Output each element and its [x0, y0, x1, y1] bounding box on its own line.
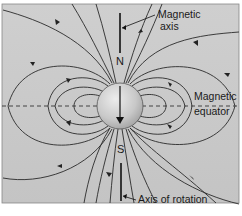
magnetic-axis-label-line2: axis [160, 21, 179, 32]
north-pole-label: N [116, 55, 124, 67]
south-pole-label: S [117, 143, 124, 155]
magnetic-equator-label-line2: equator [194, 106, 230, 117]
magnetic-axis-label-line1: Magnetic [158, 9, 201, 20]
magnetic-equator-label-line1: Magnetic [194, 91, 237, 102]
magnetic-field-diagram: N S Magnetic axis Magnetic equator Axis … [0, 0, 242, 216]
axis-of-rotation-label: Axis of rotation [138, 194, 207, 205]
